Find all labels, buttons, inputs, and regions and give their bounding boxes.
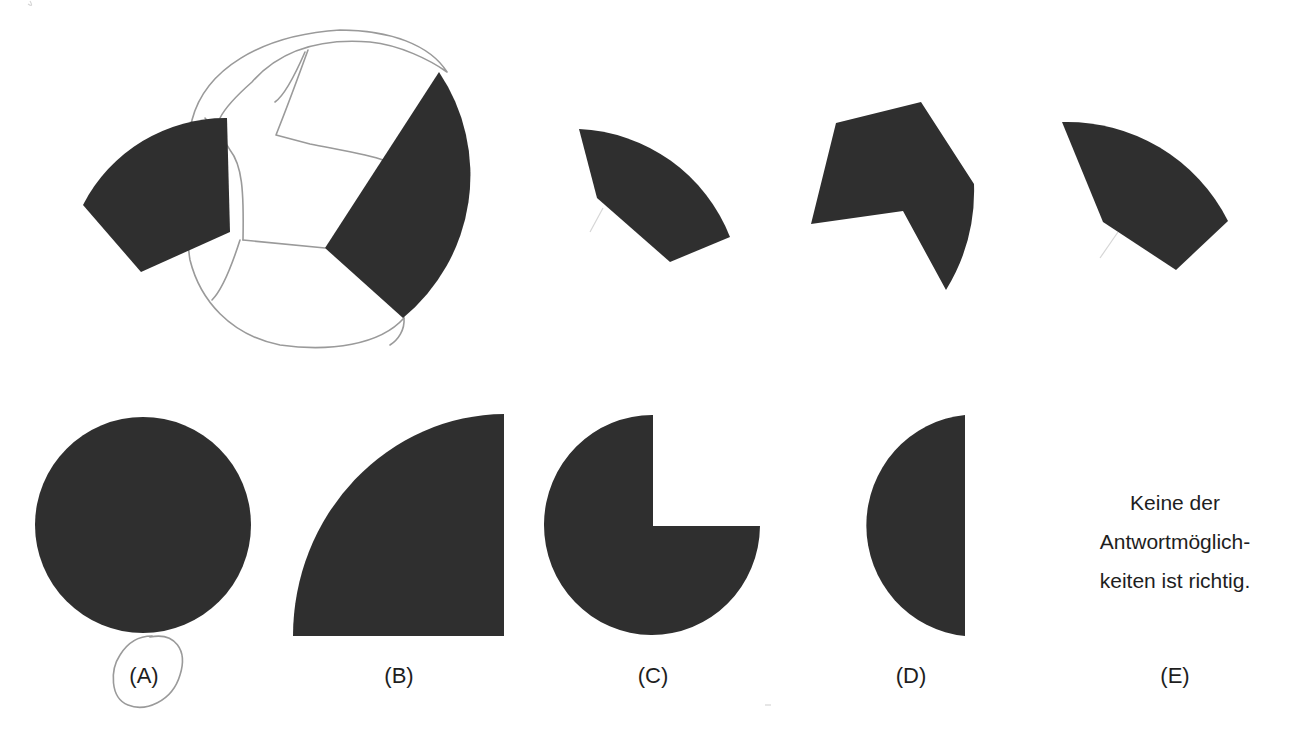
answer-c-label[interactable]: (C) (593, 663, 713, 689)
puzzle-piece-4 (811, 102, 974, 290)
answer-e-label[interactable]: (E) (1115, 663, 1235, 689)
answer-a-shape-circle[interactable] (35, 417, 251, 633)
piece-5-guide (1100, 232, 1118, 258)
puzzle-piece-3 (579, 129, 730, 262)
puzzle-canvas (0, 0, 1310, 742)
sketch-bottom-hook (390, 318, 404, 345)
sketch-inner-line-top (275, 50, 383, 160)
answer-c-shape-three-quarter-circle[interactable] (544, 415, 760, 635)
answer-e-text-line-3: keiten ist richtig. (1085, 561, 1265, 600)
answer-a-label[interactable]: (A) (84, 663, 204, 689)
answer-e-text-line-2: Antwortmöglich- (1085, 522, 1265, 561)
stray-mark (28, 1, 32, 5)
puzzle-piece-1 (83, 118, 230, 272)
puzzle-piece-2 (325, 72, 470, 318)
puzzle-piece-5 (1062, 122, 1228, 270)
sketch-inner-line-bottom (212, 240, 325, 300)
answer-e-text-line-1: Keine der (1085, 483, 1265, 522)
answer-d-label[interactable]: (D) (851, 663, 971, 689)
answer-b-shape-quarter-circle[interactable] (293, 414, 504, 636)
answer-b-label[interactable]: (B) (339, 663, 459, 689)
answer-e-text[interactable]: Keine der Antwortmöglich- keiten ist ric… (1085, 483, 1265, 600)
answer-d-shape-half-circle[interactable] (866, 415, 965, 636)
piece-3-guide (590, 208, 603, 232)
